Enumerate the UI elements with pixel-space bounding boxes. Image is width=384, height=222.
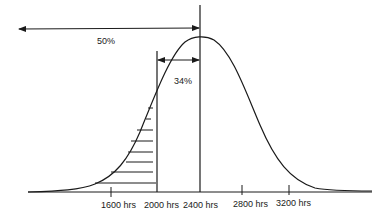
label-50-percent: 50%	[97, 36, 115, 46]
tick-label-2800: 2800 hrs	[233, 199, 269, 209]
tick-label-1600: 1600 hrs	[101, 200, 137, 210]
hatched-region	[95, 108, 156, 183]
arrow-50-percent	[19, 28, 199, 29]
normal-distribution-diagram: 50% 34% 1600 hrs 2000 hrs 2400 hrs 2800 …	[0, 0, 384, 222]
tick-label-2000: 2000 hrs	[144, 200, 180, 210]
tick-label-3200: 3200 hrs	[276, 198, 312, 208]
label-34-percent: 34%	[174, 76, 192, 86]
tick-label-2400: 2400 hrs	[183, 200, 219, 210]
